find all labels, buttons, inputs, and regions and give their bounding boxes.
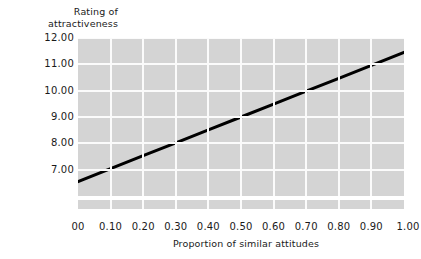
y-axis-tick-label: 12.00	[20, 33, 74, 43]
band-divider	[110, 200, 112, 209]
band-divider	[142, 200, 144, 209]
gridline-vertical	[273, 38, 275, 196]
gridline-vertical	[338, 38, 340, 196]
band-divider	[207, 200, 209, 209]
gridline-vertical	[175, 38, 177, 196]
y-axis-tick-label: 11.00	[20, 59, 74, 69]
x-axis-tick-label: 0.20	[132, 221, 155, 233]
x-axis-tick-label: 0.90	[360, 221, 383, 233]
chart-figure: Rating of attractiveness 12.0011.0010.00…	[0, 0, 421, 259]
y-axis-tick-label: 8.00	[20, 138, 74, 148]
gridline-vertical	[240, 38, 242, 196]
gridline-vertical	[305, 38, 307, 196]
x-axis-tick-label: 0.70	[295, 221, 318, 233]
band-divider	[273, 200, 275, 209]
gridline-vertical	[207, 38, 209, 196]
x-axis-tick-label: 0.50	[229, 221, 252, 233]
x-axis-band	[78, 200, 404, 209]
band-divider	[175, 200, 177, 209]
x-axis-tick-label: 0.60	[262, 221, 285, 233]
y-axis-tick-label: 9.00	[20, 112, 74, 122]
gridline-vertical	[110, 38, 112, 196]
gridline-vertical	[370, 38, 372, 196]
x-axis-tick-label: 0.80	[327, 221, 350, 233]
x-axis-tick-label: 1.00	[396, 221, 419, 233]
band-divider	[305, 200, 307, 209]
x-axis-tick-labels: 000.100.200.300.400.500.600.700.800.901.…	[0, 221, 421, 235]
band-divider	[240, 200, 242, 209]
y-axis-tick-label: 7.00	[20, 165, 74, 175]
gridline-vertical	[142, 38, 144, 196]
x-axis-tick-label: 00	[71, 221, 84, 233]
y-axis-tick-labels: 12.0011.0010.009.008.007.00	[20, 38, 74, 196]
x-axis-tick-label: 0.30	[164, 221, 187, 233]
band-divider	[370, 200, 372, 209]
band-divider	[338, 200, 340, 209]
x-axis-title: Proportion of similar attitudes	[78, 238, 414, 250]
x-axis-tick-label: 0.40	[197, 221, 220, 233]
plot-area	[78, 38, 404, 196]
x-axis-tick-label: 0.10	[99, 221, 122, 233]
y-axis-tick-label: 10.00	[20, 86, 74, 96]
y-axis-title: Rating of attractiveness	[6, 6, 118, 30]
